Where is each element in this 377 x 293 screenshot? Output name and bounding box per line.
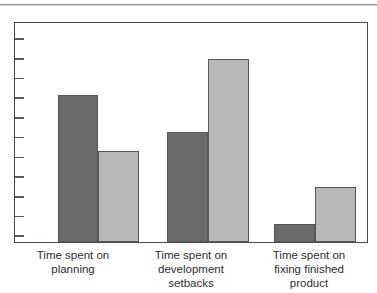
y-axis-tick-8 — [15, 196, 24, 198]
chart-frame — [14, 22, 368, 243]
y-axis-tick-5 — [15, 137, 24, 139]
chart-page: Time spent on planning Time spent on dev… — [0, 0, 377, 293]
y-axis-tick-7 — [15, 176, 24, 178]
category-axis-labels: Time spent on planning Time spent on dev… — [14, 247, 368, 293]
plot-area — [15, 23, 367, 242]
y-axis-tick-10 — [15, 235, 24, 237]
y-axis-tick-3 — [15, 97, 24, 99]
top-divider-rule-shadow — [0, 5, 377, 6]
bar-group-0-series-dark[interactable] — [58, 95, 99, 242]
y-axis-tick-6 — [15, 157, 24, 159]
bar-group-0-series-light[interactable] — [98, 151, 139, 242]
bar-group-1-series-light[interactable] — [208, 59, 249, 242]
bar-group-2-series-dark[interactable] — [274, 224, 315, 242]
category-label-2: Time spent on fixing finished product — [250, 247, 368, 293]
y-axis-tick-9 — [15, 216, 24, 218]
category-label-0: Time spent on planning — [14, 247, 132, 293]
category-label-1: Time spent on development setbacks — [132, 247, 250, 293]
y-axis-tick-2 — [15, 78, 24, 80]
y-axis-tick-4 — [15, 117, 24, 119]
y-axis-tick-0 — [15, 38, 24, 40]
y-axis-tick-1 — [15, 58, 24, 60]
bar-group-1-series-dark[interactable] — [167, 132, 208, 242]
bar-group-2-series-light[interactable] — [315, 187, 356, 242]
